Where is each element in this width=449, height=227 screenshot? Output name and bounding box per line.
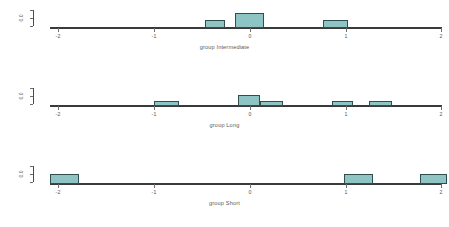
x-tick-label: -2 [48, 33, 68, 39]
histogram-bar [205, 20, 225, 29]
x-tick-label: 0 [240, 111, 260, 117]
x-tick [58, 184, 59, 188]
plot-area: 0.0 -2 -1 0 1 2 [0, 156, 449, 201]
y-axis-label: 0.0 [18, 86, 24, 106]
y-tick [30, 96, 34, 97]
x-tick-label: 1 [336, 33, 356, 39]
x-tick [441, 106, 442, 110]
x-tick-label: -1 [144, 111, 164, 117]
x-tick-label: 1 [336, 111, 356, 117]
x-tick-label: 1 [336, 189, 356, 195]
y-tick [30, 104, 34, 105]
y-tick [30, 18, 34, 19]
x-tick [250, 184, 251, 188]
y-axis-label: 0.0 [18, 8, 24, 28]
y-tick [30, 88, 34, 89]
histogram-bar [332, 101, 353, 107]
x-tick-label: -2 [48, 189, 68, 195]
histogram-bar [420, 174, 447, 184]
y-axis-line [33, 10, 34, 26]
y-axis-line [33, 88, 34, 104]
y-tick [30, 182, 34, 183]
x-tick-label: -1 [144, 189, 164, 195]
histogram-bar [260, 101, 283, 107]
histogram-bar [369, 101, 392, 107]
y-tick [30, 174, 34, 175]
panel-group-intermediate: 0.0 -2 -1 0 1 2 group Intermediate [0, 0, 449, 76]
y-axis-line [33, 166, 34, 182]
x-tick-label: -1 [144, 33, 164, 39]
y-tick [30, 26, 34, 27]
x-tick [154, 28, 155, 32]
x-tick [154, 106, 155, 110]
y-tick [30, 166, 34, 167]
x-tick-label: 2 [431, 111, 449, 117]
x-tick-label: 0 [240, 33, 260, 39]
histogram-figure: 0.0 -2 -1 0 1 2 group Intermediate [0, 0, 449, 227]
x-tick [441, 28, 442, 32]
x-tick [346, 106, 347, 110]
histogram-bar [154, 101, 179, 107]
plot-area: 0.0 -2 -1 0 1 2 [0, 78, 449, 123]
plot-area: 0.0 -2 -1 0 1 2 [0, 0, 449, 45]
histogram-bar [238, 95, 260, 107]
histogram-bar [50, 174, 79, 184]
histogram-bar [235, 13, 264, 29]
x-tick-label: 0 [240, 189, 260, 195]
panel-group-long: 0.0 -2 -1 0 1 2 group Long [0, 78, 449, 154]
panel-title: group Short [0, 200, 449, 206]
panel-group-short: 0.0 -2 -1 0 1 2 group Short [0, 156, 449, 227]
x-tick [250, 106, 251, 110]
x-tick-label: 2 [431, 33, 449, 39]
x-tick [250, 28, 251, 32]
panel-title: group Long [0, 122, 449, 128]
x-tick [346, 184, 347, 188]
histogram-bar [344, 174, 373, 184]
x-tick [154, 184, 155, 188]
x-axis-line [50, 183, 442, 185]
x-tick [58, 106, 59, 110]
x-tick [346, 28, 347, 32]
x-tick [441, 184, 442, 188]
y-tick [30, 10, 34, 11]
histogram-bar [323, 20, 348, 29]
panel-title: group Intermediate [0, 44, 449, 50]
y-axis-label: 0.0 [18, 164, 24, 184]
x-tick-label: -2 [48, 111, 68, 117]
x-tick-label: 2 [431, 189, 449, 195]
x-tick [58, 28, 59, 32]
